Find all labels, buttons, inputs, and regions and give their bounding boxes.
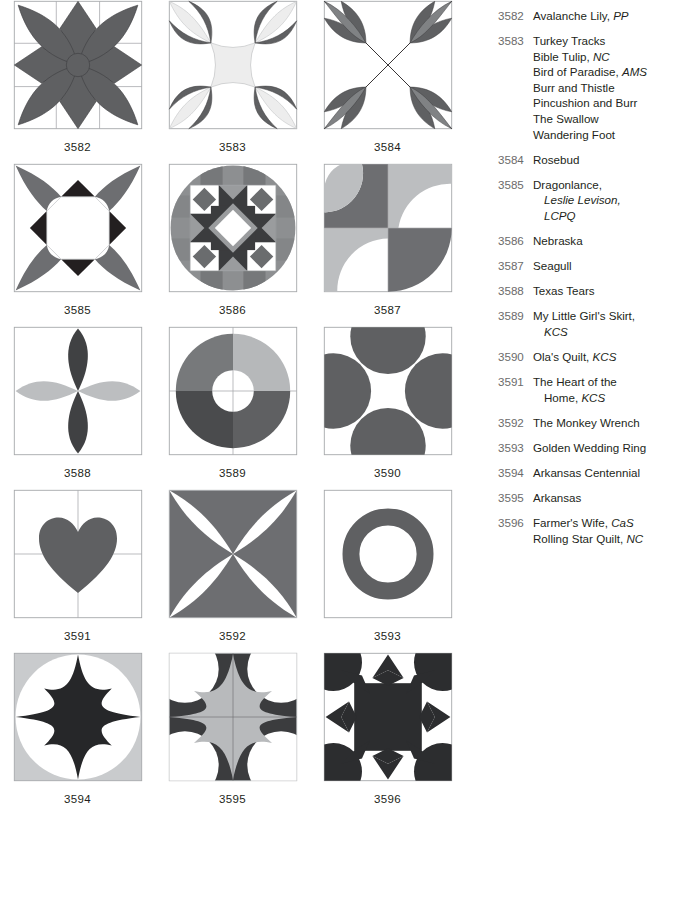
index-name: Rolling Star Quilt,	[533, 532, 626, 545]
index-name: Burr and Thistle	[533, 81, 615, 94]
block-number-label: 3586	[219, 304, 246, 316]
index-number: 3588	[498, 283, 533, 299]
quilt-block-golden-wedding-ring[interactable]	[323, 489, 453, 619]
index-names: Ola's Quilt, KCS	[533, 349, 616, 365]
block-number-label: 3590	[374, 467, 401, 479]
index-number: 3594	[498, 465, 533, 481]
block-cell-3595[interactable]: 3595	[155, 652, 310, 815]
block-number-label: 3582	[64, 141, 91, 153]
index-name: Bible Tulip,	[533, 50, 593, 63]
index-names: Turkey Tracks Bible Tulip, NC Bird of Pa…	[533, 33, 647, 142]
index-names: Nebraska	[533, 233, 583, 249]
quilt-block-flower-eight-point[interactable]	[13, 0, 143, 130]
index-entry: 3583 Turkey Tracks Bible Tulip, NC Bird …	[498, 33, 684, 142]
block-number-label: 3595	[219, 793, 246, 805]
index-name: The Swallow	[533, 112, 599, 125]
index-name: The Monkey Wrench	[533, 416, 640, 429]
index-name: Arkansas	[533, 491, 581, 504]
quilt-block-grid: 3582	[0, 0, 490, 815]
index-source: KCS	[593, 350, 617, 363]
block-cell-3592[interactable]: 3592	[155, 489, 310, 652]
index-number: 3582	[498, 8, 533, 24]
block-number-label: 3588	[64, 467, 91, 479]
index-number: 3593	[498, 440, 533, 456]
block-number-label: 3592	[219, 630, 246, 642]
index-names: Farmer's Wife, CaS Rolling Star Quilt, N…	[533, 515, 643, 546]
index-names: Dragonlance, Leslie Levison, LCPQ	[533, 177, 621, 224]
quilt-block-texas-tears[interactable]	[13, 326, 143, 456]
index-entry: 3596 Farmer's Wife, CaS Rolling Star Qui…	[498, 515, 684, 546]
quilt-block-arkansas-centennial[interactable]	[13, 652, 143, 782]
block-cell-3585[interactable]: 3585	[0, 163, 155, 326]
quilt-block-arkansas[interactable]	[168, 652, 298, 782]
index-source: KCS	[544, 325, 568, 338]
index-entry: 3592 The Monkey Wrench	[498, 415, 684, 431]
quilt-block-nebraska[interactable]	[168, 163, 298, 293]
index-source: NC	[593, 50, 610, 63]
quilt-block-dragonlance[interactable]	[13, 163, 143, 293]
index-number: 3592	[498, 415, 533, 431]
block-cell-3589[interactable]: 3589	[155, 326, 310, 489]
index-names: Arkansas Centennial	[533, 465, 640, 481]
quilt-block-rosebud[interactable]	[323, 0, 453, 130]
index-name: Farmer's Wife,	[533, 516, 611, 529]
index-name: My Little Girl's Skirt,	[533, 309, 635, 322]
index-name: Rosebud	[533, 153, 579, 166]
block-cell-3590[interactable]: 3590	[310, 326, 465, 489]
block-cell-3584[interactable]: 3584	[310, 0, 465, 163]
index-number: 3596	[498, 515, 533, 546]
index-name: Avalanche Lily,	[533, 9, 613, 22]
block-row-2: 3585	[0, 163, 490, 326]
index-name: Seagull	[533, 259, 572, 272]
index-entry: 3586 Nebraska	[498, 233, 684, 249]
block-cell-3591[interactable]: 3591	[0, 489, 155, 652]
block-cell-3588[interactable]: 3588	[0, 326, 155, 489]
quilt-block-monkey-wrench[interactable]	[168, 489, 298, 619]
index-name: Ola's Quilt,	[533, 350, 593, 363]
index-names: The Heart of the Home, KCS	[533, 374, 617, 405]
index-name: Bird of Paradise,	[533, 65, 622, 78]
quilt-block-turkey-tracks[interactable]	[168, 0, 298, 130]
quilt-block-catalog-page: 3582	[0, 0, 686, 912]
index-names: Avalanche Lily, PP	[533, 8, 629, 24]
index-number: 3590	[498, 349, 533, 365]
block-number-label: 3594	[64, 793, 91, 805]
block-row-3: 3588	[0, 326, 490, 489]
quilt-block-farmers-wife[interactable]	[323, 652, 453, 782]
block-cell-3583[interactable]: 3583	[155, 0, 310, 163]
index-source: PP	[613, 9, 628, 22]
index-entry: 3587 Seagull	[498, 258, 684, 274]
index-entry: 3584 Rosebud	[498, 152, 684, 168]
index-names: Rosebud	[533, 152, 579, 168]
block-cell-3586[interactable]: 3586	[155, 163, 310, 326]
quilt-block-heart-of-the-home[interactable]	[13, 489, 143, 619]
index-name: Arkansas Centennial	[533, 466, 640, 479]
index-name: Golden Wedding Ring	[533, 441, 646, 454]
block-number-label: 3593	[374, 630, 401, 642]
index-name: Dragonlance,	[533, 178, 602, 191]
index-number: 3595	[498, 490, 533, 506]
index-entry: 3591 The Heart of the Home, KCS	[498, 374, 684, 405]
index-source: CaS	[611, 516, 634, 529]
index-number: 3589	[498, 308, 533, 339]
index-number: 3583	[498, 33, 533, 142]
block-number-label: 3587	[374, 304, 401, 316]
block-cell-3582[interactable]: 3582	[0, 0, 155, 163]
index-source: LCPQ	[544, 209, 576, 222]
block-row-4: 3591 3592	[0, 489, 490, 652]
block-cell-3596[interactable]: 3596	[310, 652, 465, 815]
block-cell-3594[interactable]: 3594	[0, 652, 155, 815]
index-names: Arkansas	[533, 490, 581, 506]
block-cell-3587[interactable]: 3587	[310, 163, 465, 326]
index-source: Leslie Levison,	[544, 193, 621, 206]
index-names: Seagull	[533, 258, 572, 274]
index-names: The Monkey Wrench	[533, 415, 640, 431]
index-number: 3587	[498, 258, 533, 274]
index-entry: 3590 Ola's Quilt, KCS	[498, 349, 684, 365]
quilt-block-olas-quilt[interactable]	[323, 326, 453, 456]
block-cell-3593[interactable]: 3593	[310, 489, 465, 652]
quilt-block-seagull[interactable]	[323, 163, 453, 293]
index-name: Home,	[544, 391, 581, 404]
index-name: Turkey Tracks	[533, 34, 605, 47]
quilt-block-my-little-girls-skirt[interactable]	[168, 326, 298, 456]
